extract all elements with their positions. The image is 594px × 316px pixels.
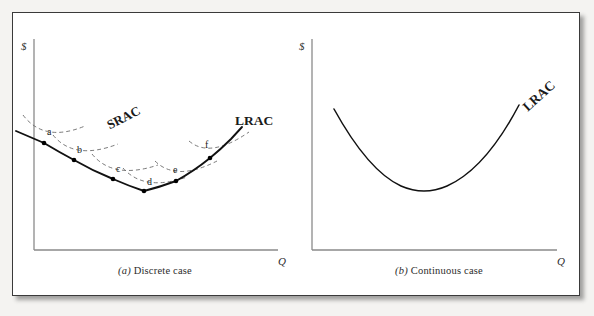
srac-curve-a <box>23 115 85 132</box>
tangency-point-e <box>174 179 179 184</box>
panel-discrete-case: $ Q SRAC LRAC a b c d e f (a) Discrete c… <box>13 13 297 297</box>
srac-curve-f <box>189 132 249 148</box>
caption-a-prefix: (a) <box>118 265 131 276</box>
point-label-d: d <box>147 176 152 187</box>
caption-panel-b: (b) Continuous case <box>297 265 581 276</box>
caption-a-text: Discrete case <box>134 265 192 276</box>
tangency-point-b <box>72 158 77 163</box>
caption-b-text: Continuous case <box>411 265 483 276</box>
caption-panel-a: (a) Discrete case <box>13 265 297 276</box>
panel-continuous-case: $ Q LRAC (b) Continuous case <box>297 13 581 297</box>
caption-b-prefix: (b) <box>395 265 408 276</box>
panel-b-plot <box>297 13 581 297</box>
point-label-a: a <box>47 126 51 137</box>
srac-curve-e <box>155 161 217 172</box>
tangency-point-c <box>111 177 116 182</box>
panel-a-plot <box>13 13 297 297</box>
tangency-point-a <box>42 141 47 146</box>
y-axis-label-b: $ <box>299 40 305 52</box>
figure-frame: $ Q SRAC LRAC a b c d e f (a) Discrete c… <box>12 12 580 296</box>
tangency-point-d <box>142 189 147 194</box>
lrac-label-a: LRAC <box>235 113 273 129</box>
point-label-e: e <box>173 164 177 175</box>
srac-curve-b <box>53 135 118 151</box>
point-label-c: c <box>116 163 120 174</box>
srac-curve-c <box>92 154 158 170</box>
point-label-b: b <box>77 144 82 155</box>
tangency-point-f <box>208 156 213 161</box>
lrac-curve-b <box>334 105 519 191</box>
y-axis-label-a: $ <box>21 40 27 52</box>
point-label-f: f <box>205 139 208 150</box>
